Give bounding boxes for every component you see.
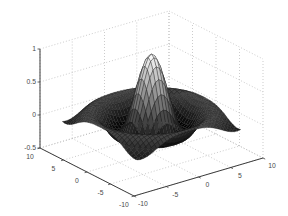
- y-tick: [85, 172, 87, 173]
- z-tick-label: 0.5: [27, 78, 37, 85]
- y-tick: [132, 196, 134, 197]
- x-tick-label: -5: [172, 191, 178, 198]
- y-tick: [108, 184, 110, 185]
- x-tick-label: 5: [238, 172, 242, 179]
- y-tick-label: 10: [26, 153, 34, 160]
- x-tick: [263, 158, 265, 159]
- surface-mesh: [62, 54, 240, 160]
- y-tick-label: -5: [97, 189, 103, 196]
- figure-window: -10-50510-10-50510-0.500.51: [0, 0, 288, 216]
- x-tick-label: 0: [206, 181, 210, 188]
- gridline-z-right-wall: [169, 11, 263, 59]
- x-tick: [231, 168, 233, 169]
- x-tick: [166, 187, 168, 188]
- x-tick-label: -10: [138, 200, 148, 207]
- y-tick: [61, 160, 63, 161]
- y-tick-label: 5: [52, 165, 56, 172]
- surface-plot-canvas: -10-50510-10-50510-0.500.51: [0, 0, 288, 216]
- x-tick: [134, 196, 136, 197]
- z-tick-label: 0: [32, 111, 36, 118]
- y-tick-label: -10: [119, 201, 129, 208]
- x-tick: [199, 177, 201, 178]
- gridline-z-left-wall: [40, 11, 169, 49]
- z-tick-label: -0.5: [24, 144, 36, 151]
- y-tick-label: 0: [75, 177, 79, 184]
- z-tick-label: 1: [32, 45, 36, 52]
- x-tick-label: 10: [268, 162, 276, 169]
